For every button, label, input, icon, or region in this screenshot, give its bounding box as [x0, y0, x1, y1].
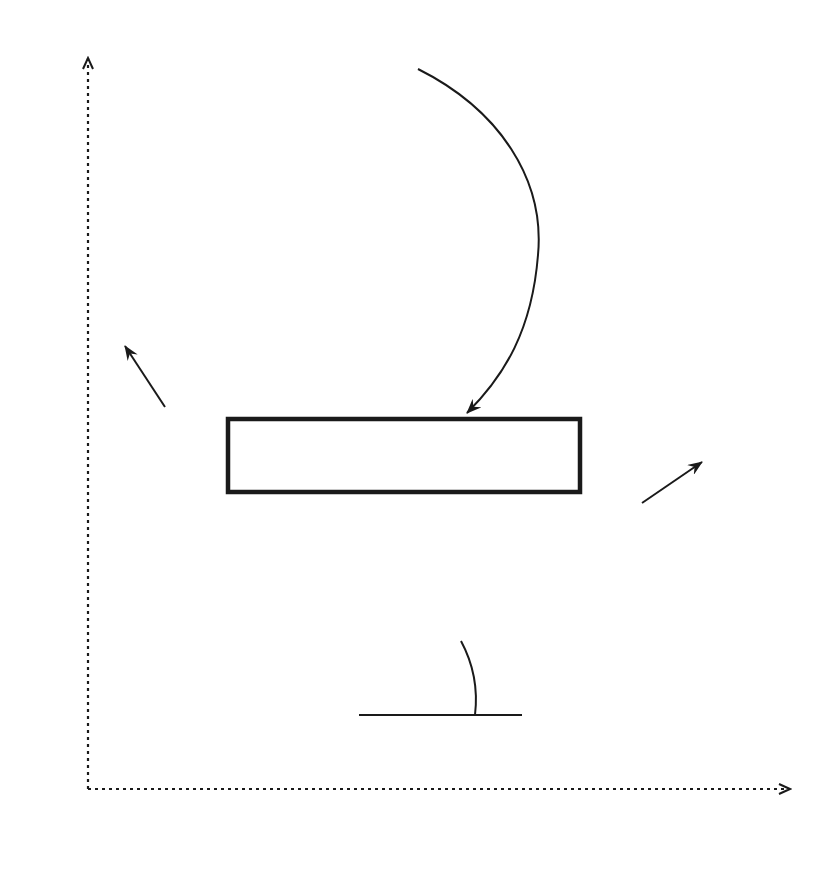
rotated-y-axis [125, 346, 165, 407]
rotated-x-axis [642, 462, 702, 503]
angle-arc [461, 641, 476, 715]
matching-window [228, 419, 580, 492]
matching-feature-diagram [0, 0, 833, 881]
pointer-curve-arrow [418, 69, 539, 413]
